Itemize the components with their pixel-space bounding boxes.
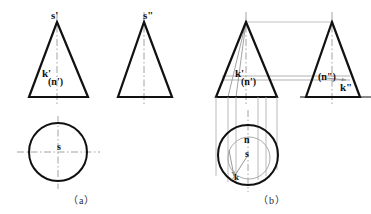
label-b-side-k: k" [340,82,352,93]
label-b-front-n: (n') [241,77,256,87]
label-b-top-n: n [244,135,250,145]
label-a-front-apex: s' [51,10,58,21]
label-a-side-apex: s" [143,10,153,21]
part-a-side-triangle [118,22,172,97]
caption-a: （a） [68,192,95,207]
figure-root: s' k' (n') s" s k' (n') (n") k" n s k （a… [0,0,371,214]
caption-b: （b） [258,192,286,207]
label-a-front-n: (n') [48,77,63,87]
part-a-group [17,12,172,189]
part-b-group [216,12,371,192]
label-a-top-s: s [57,142,61,152]
figure-canvas [0,0,371,214]
label-b-top-k: k [234,173,239,182]
label-b-top-s: s [245,149,249,159]
label-b-side-n: (n") [318,72,336,82]
